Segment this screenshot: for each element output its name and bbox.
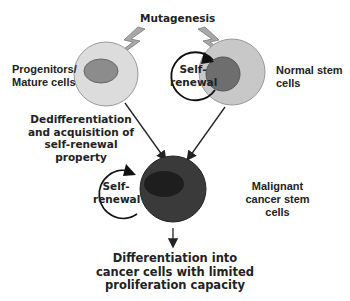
normal-stem-label: Normal stem cells (276, 64, 343, 90)
malignant-label: Malignant cancer stem cells (240, 180, 315, 219)
malignant-line1: Malignant (240, 180, 315, 193)
progenitor-label-line1: Progenitors/ (12, 63, 77, 76)
malignant-cancer-stem-cell-icon (140, 156, 206, 222)
dediff-label: Dedifferentiation and acquisition of sel… (22, 113, 140, 163)
dediff-line4: property (22, 151, 140, 164)
arrow-normal (188, 107, 225, 159)
normal-stem-label-line1: Normal stem (276, 64, 343, 77)
outcome-line2: cancer cells with limited (95, 266, 255, 280)
mutagenesis-label: Mutagenesis (140, 12, 210, 25)
self-renewal-top-label: Self- renewal (170, 63, 216, 88)
dediff-line3: self-renewal (22, 138, 140, 151)
progenitor-cell-icon (74, 42, 138, 106)
cancer-stem-cell-diagram: Mutagenesis Progenitors/ Mature cells No… (0, 0, 350, 301)
dediff-line2: and acquisition of (22, 126, 140, 139)
malignant-line2: cancer stem (240, 193, 315, 206)
outcome-line1: Differentiation into (95, 252, 255, 266)
dediff-line1: Dedifferentiation (22, 113, 140, 126)
self-renewal-top-line2: renewal (170, 76, 216, 89)
progenitor-label: Progenitors/ Mature cells (12, 63, 77, 89)
self-renewal-bottom-label: Self- renewal (93, 180, 139, 205)
self-renewal-top-line1: Self- (170, 63, 216, 76)
outcome-line3: proliferation capacity (95, 279, 255, 293)
progenitor-label-line2: Mature cells (12, 76, 77, 89)
malignant-line3: cells (240, 206, 315, 219)
outcome-label: Differentiation into cancer cells with l… (95, 252, 255, 293)
self-renewal-bottom-line2: renewal (93, 193, 139, 206)
normal-stem-label-line2: cells (276, 77, 343, 90)
self-renewal-bottom-line1: Self- (93, 180, 139, 193)
